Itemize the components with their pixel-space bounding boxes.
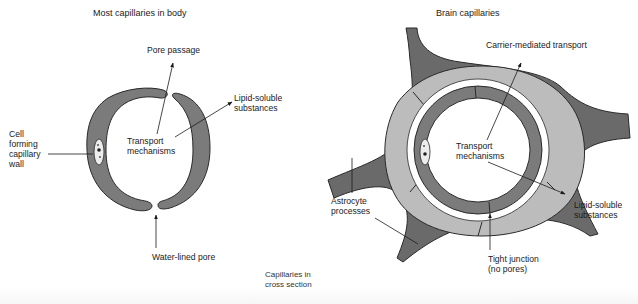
left-panel-title: Most capillaries in body	[93, 8, 187, 18]
label-lipid-soluble-right: Lipid-soluble substances	[574, 200, 622, 220]
left-nucleus	[94, 139, 104, 165]
label-water-lined-pore: Water-lined pore	[152, 252, 215, 262]
label-transport-left: Transport mechanisms	[127, 136, 175, 156]
label-transport-right: Transport mechanisms	[456, 141, 504, 161]
arrow-pore-passage	[157, 63, 173, 134]
label-pore-passage: Pore passage	[147, 45, 200, 55]
diagram-caption: Capillaries in cross section	[265, 270, 312, 290]
label-tight-junction: Tight junction (no pores)	[488, 254, 539, 274]
label-lipid-soluble-left: Lipid-soluble substances	[234, 93, 282, 113]
label-carrier-mediated: Carrier-mediated transport	[486, 40, 587, 50]
brain-nucleolus	[423, 152, 427, 156]
label-cell-forming-wall: Cell forming capillary wall	[9, 129, 41, 169]
capillary-diagram: Most capillaries in body Pore passage Li…	[0, 0, 638, 304]
page-bottom-edge	[0, 288, 638, 304]
left-nucleolus	[97, 148, 101, 152]
label-astrocyte-processes: Astrocyte processes	[331, 196, 370, 216]
right-panel-title: Brain capillaries	[436, 8, 500, 18]
brain-nucleus	[420, 139, 430, 165]
